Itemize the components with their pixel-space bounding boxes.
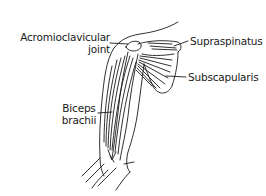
label-subscapularis: Subscapularis [188, 71, 258, 83]
shoulder-arm-illustration [0, 0, 266, 196]
supraspinatus-fibers [148, 43, 177, 50]
label-biceps-brachii: Biceps brachii [58, 102, 100, 126]
label-line: joint [20, 43, 110, 55]
arm-outline-right [127, 64, 144, 172]
label-line: Supraspinatus [190, 35, 263, 47]
acromion [126, 41, 141, 51]
leader-biceps [98, 112, 112, 113]
label-line: Biceps [58, 102, 100, 114]
biceps-fibers [104, 56, 136, 154]
forearm [82, 158, 134, 190]
label-line: Subscapularis [188, 71, 258, 83]
label-acromioclavicular-joint: Acromioclavicular joint [20, 31, 110, 55]
label-line: brachii [58, 114, 100, 126]
label-line: Acromioclavicular [20, 31, 110, 43]
leader-acromioclavicular [110, 43, 128, 44]
label-supraspinatus: Supraspinatus [190, 35, 263, 47]
leader-subscapularis [166, 76, 186, 77]
